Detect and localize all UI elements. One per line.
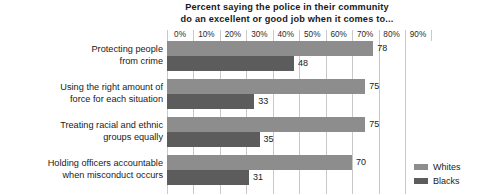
- x-tick-separator: [299, 30, 300, 41]
- category-label-line: Holding officers accountable: [5, 158, 163, 170]
- bar-row: 70: [167, 155, 405, 170]
- category-label: Holding officers accountablewhen miscond…: [5, 158, 163, 181]
- x-tick-label: 40%: [278, 29, 294, 41]
- x-tick-label: 10%: [198, 29, 214, 41]
- x-tick-separator: [379, 30, 380, 41]
- bar-value-label: 35: [260, 132, 274, 147]
- bar-group: 7535: [167, 117, 405, 147]
- gridline: [405, 41, 406, 194]
- plot-area: 7848753375357031: [167, 41, 405, 194]
- legend-swatch-icon: [414, 178, 428, 184]
- legend: WhitesBlacks: [414, 160, 478, 188]
- bar-whites: [167, 79, 365, 94]
- bar-blacks: [167, 132, 260, 147]
- x-tick-label: 90%: [410, 29, 426, 41]
- bar-row: 33: [167, 94, 405, 109]
- x-tick-label: 50%: [304, 29, 320, 41]
- x-tick-separator: [431, 30, 432, 41]
- bar-value-label: 78: [373, 41, 387, 56]
- bar-value-label: 31: [249, 170, 263, 185]
- x-tick-separator: [405, 30, 406, 41]
- category-label-line: force for each situation: [5, 94, 163, 106]
- legend-swatch-icon: [414, 164, 428, 170]
- bar-value-label: 75: [365, 117, 379, 132]
- chart-title-line-1: Percent saying the police in their commu…: [162, 2, 412, 14]
- bar-row: 75: [167, 79, 405, 94]
- bar-chart: Percent saying the police in their commu…: [0, 0, 481, 194]
- bar-group: 7031: [167, 155, 405, 185]
- bar-value-label: 33: [254, 94, 268, 109]
- bar-whites: [167, 41, 373, 56]
- bar-row: 35: [167, 132, 405, 147]
- category-label: Protecting peoplefrom crime: [5, 44, 163, 67]
- bar-value-label: 70: [352, 155, 366, 170]
- chart-title: Percent saying the police in their commu…: [162, 2, 412, 25]
- x-tick-label: 80%: [383, 29, 399, 41]
- category-label: Treating racial and ethnicgroups equally: [5, 120, 163, 143]
- category-label-line: Using the right amount of: [5, 82, 163, 94]
- bar-value-label: 75: [365, 79, 379, 94]
- category-label-line: groups equally: [5, 132, 163, 144]
- bar-whites: [167, 155, 352, 170]
- x-tick-label: 30%: [251, 29, 267, 41]
- x-tick-label: 70%: [357, 29, 373, 41]
- x-tick-separator: [273, 30, 274, 41]
- x-tick-separator: [220, 30, 221, 41]
- x-tick-separator: [246, 30, 247, 41]
- chart-title-line-2: do an excellent or good job when it come…: [162, 14, 412, 26]
- x-tick-separator: [193, 30, 194, 41]
- category-label-line: when misconduct occurs: [5, 170, 163, 182]
- x-tick-label: 60%: [330, 29, 346, 41]
- bar-row: 31: [167, 170, 405, 185]
- bar-value-label: 48: [294, 56, 308, 71]
- legend-label: Whites: [433, 160, 461, 174]
- x-tick-separator: [352, 30, 353, 41]
- bar-group: 7848: [167, 41, 405, 71]
- category-label-line: Protecting people: [5, 44, 163, 56]
- x-tick-label: 0%: [174, 29, 186, 41]
- category-label-line: Treating racial and ethnic: [5, 120, 163, 132]
- legend-item[interactable]: Whites: [414, 160, 478, 174]
- x-tick-label: 20%: [225, 29, 241, 41]
- bar-row: 78: [167, 41, 405, 56]
- bar-blacks: [167, 94, 254, 109]
- bar-whites: [167, 117, 365, 132]
- legend-label: Blacks: [433, 174, 460, 188]
- category-label-line: from crime: [5, 56, 163, 68]
- x-tick-separator: [326, 30, 327, 41]
- bar-group: 7533: [167, 79, 405, 109]
- bar-blacks: [167, 170, 249, 185]
- x-tick-separator: [167, 30, 168, 41]
- legend-item[interactable]: Blacks: [414, 174, 478, 188]
- bar-blacks: [167, 56, 294, 71]
- category-label: Using the right amount offorce for each …: [5, 82, 163, 105]
- bar-row: 48: [167, 56, 405, 71]
- bar-row: 75: [167, 117, 405, 132]
- x-axis-tick-labels: 0%10%20%30%40%50%60%70%80%90%: [167, 29, 431, 41]
